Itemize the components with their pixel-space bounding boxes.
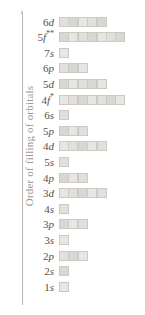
orbital-row: 4d [26, 139, 145, 154]
orbital-box-group [59, 204, 68, 214]
orbital-box [115, 95, 125, 105]
orbital-box-group [59, 17, 106, 27]
orbital-label: 2s [26, 265, 57, 277]
orbital-box-group [59, 141, 106, 151]
orbital-label: 4f* [26, 94, 57, 106]
orbital-row: 2p [26, 248, 145, 263]
orbital-label: 3s [26, 234, 57, 246]
orbital-label: 5s [26, 156, 57, 168]
orbital-row: 6p [26, 61, 145, 76]
orbital-row: 4f* [26, 92, 145, 107]
orbital-label: 5f** [26, 31, 57, 43]
orbital-box-group [59, 48, 68, 58]
orbital-box [78, 63, 88, 73]
orbital-filling-diagram: Order of filling of orbitals 6d5f**7s6p5… [0, 0, 145, 315]
orbital-label: 5d [26, 78, 57, 90]
orbital-row: 3d [26, 186, 145, 201]
orbital-box-group [59, 235, 68, 245]
orbital-label: 2p [26, 250, 57, 262]
orbital-row: 5p [26, 123, 145, 138]
orbital-box [78, 251, 88, 261]
orbital-label: 3d [26, 187, 57, 199]
orbital-box [59, 48, 69, 58]
orbital-box [78, 219, 88, 229]
orbital-box [97, 141, 107, 151]
orbital-row-list: 6d5f**7s6p5d4f*6s5p4d5s4p3d4s3p3s2p2s1s [0, 0, 145, 315]
orbital-label: 3p [26, 218, 57, 230]
orbital-row: 1s [26, 279, 145, 294]
orbital-box [59, 282, 69, 292]
orbital-box-group [59, 157, 68, 167]
orbital-box-group [59, 173, 87, 183]
orbital-box-group [59, 251, 87, 261]
orbital-box-group [59, 266, 68, 276]
orbital-label: 7s [26, 47, 57, 59]
orbital-label: 4s [26, 203, 57, 215]
orbital-row: 6d [26, 14, 145, 29]
orbital-box-group [59, 63, 87, 73]
orbital-row: 4s [26, 201, 145, 216]
orbital-box-group [59, 32, 125, 42]
orbital-box-group [59, 282, 68, 292]
orbital-box [59, 204, 69, 214]
orbital-box [115, 32, 125, 42]
orbital-box [59, 235, 69, 245]
orbital-box [78, 126, 88, 136]
orbital-label: 6p [26, 62, 57, 74]
orbital-label: 4p [26, 172, 57, 184]
orbital-box [97, 79, 107, 89]
orbital-box-group [59, 79, 106, 89]
orbital-label: 1s [26, 281, 57, 293]
orbital-box-group [59, 126, 87, 136]
orbital-box-group [59, 188, 106, 198]
orbital-label: 5p [26, 125, 57, 137]
orbital-box-group [59, 219, 87, 229]
orbital-box [78, 173, 88, 183]
orbital-label: 4d [26, 140, 57, 152]
orbital-label: 6d [26, 16, 57, 28]
orbital-box [59, 110, 69, 120]
orbital-box-group [59, 110, 68, 120]
orbital-label: 6s [26, 109, 57, 121]
orbital-box [97, 17, 107, 27]
orbital-box-group [59, 95, 125, 105]
orbital-row: 4p [26, 170, 145, 185]
orbital-row: 5d [26, 76, 145, 91]
orbital-row: 5s [26, 154, 145, 169]
orbital-row: 6s [26, 108, 145, 123]
orbital-row: 3s [26, 232, 145, 247]
orbital-box [59, 157, 69, 167]
orbital-box [59, 266, 69, 276]
orbital-row: 7s [26, 45, 145, 60]
orbital-row: 3p [26, 217, 145, 232]
orbital-row: 2s [26, 264, 145, 279]
orbital-row: 5f** [26, 30, 145, 45]
orbital-box [97, 188, 107, 198]
